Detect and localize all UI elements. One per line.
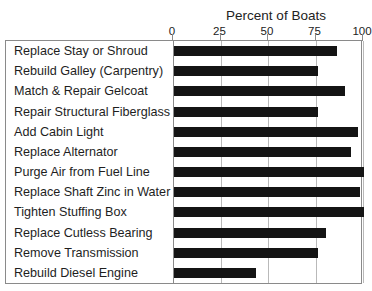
category-row: Remove Transmission: [6, 243, 173, 263]
category-label: Rebuild Diesel Engine: [14, 263, 138, 283]
bar-row: [174, 223, 361, 243]
bar-row: [174, 263, 361, 283]
category-row: Repair Structural Fiberglass: [6, 102, 173, 122]
category-label: Rebuild Galley (Carpentry): [14, 61, 163, 81]
category-label: Replace Cutless Bearing: [14, 223, 153, 243]
bar: [174, 86, 345, 96]
category-label: Match & Repair Gelcoat: [14, 81, 148, 101]
category-row: Replace Alternator: [6, 142, 173, 162]
bar: [174, 268, 256, 278]
bar-row: [174, 162, 361, 182]
category-label: Replace Stay or Shroud: [14, 41, 148, 61]
bar: [174, 66, 318, 76]
bar-row: [174, 81, 361, 101]
bar: [174, 147, 351, 157]
x-tick-mark-100: [362, 34, 363, 41]
category-row: Purge Air from Fuel Line: [6, 162, 173, 182]
category-label: Replace Shaft Zinc in Water: [14, 182, 170, 202]
category-row: Match & Repair Gelcoat: [6, 81, 173, 101]
plot-area: [173, 41, 361, 283]
bar-row: [174, 243, 361, 263]
category-label: Remove Transmission: [14, 243, 139, 263]
category-label: Tighten Stuffing Box: [14, 202, 127, 222]
bar: [174, 228, 326, 238]
category-label-column: Replace Stay or ShroudRebuild Galley (Ca…: [6, 41, 173, 283]
bar-row: [174, 122, 361, 142]
chart-title: Percent of Boats: [186, 8, 366, 24]
bar-row: [174, 142, 361, 162]
bar: [174, 187, 360, 197]
bar: [174, 107, 318, 117]
category-label: Purge Air from Fuel Line: [14, 162, 150, 182]
bar: [174, 207, 364, 217]
bar: [174, 46, 337, 56]
category-row: Replace Stay or Shroud: [6, 41, 173, 61]
bar: [174, 248, 318, 258]
category-row: Rebuild Diesel Engine: [6, 263, 173, 283]
category-label: Add Cabin Light: [14, 122, 104, 142]
category-row: Replace Cutless Bearing: [6, 223, 173, 243]
bar-row: [174, 41, 361, 61]
category-row: Rebuild Galley (Carpentry): [6, 61, 173, 81]
bar: [174, 167, 364, 177]
category-label: Replace Alternator: [14, 142, 118, 162]
plot-frame: Replace Stay or ShroudRebuild Galley (Ca…: [5, 40, 362, 284]
bar-row: [174, 61, 361, 81]
bar-row: [174, 202, 361, 222]
bar-row: [174, 102, 361, 122]
bar-row: [174, 182, 361, 202]
category-label: Repair Structural Fiberglass: [14, 102, 170, 122]
category-row: Add Cabin Light: [6, 122, 173, 142]
bar: [174, 127, 358, 137]
category-row: Replace Shaft Zinc in Water: [6, 182, 173, 202]
gridline-100: [363, 41, 364, 283]
category-row: Tighten Stuffing Box: [6, 202, 173, 222]
